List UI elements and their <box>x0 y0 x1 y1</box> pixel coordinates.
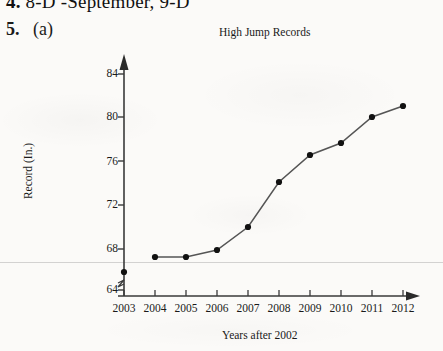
data-point-markers <box>121 103 406 275</box>
plot-area <box>0 0 443 351</box>
y-axis <box>118 54 129 296</box>
high-jump-records-chart: High Jump Records Record (In.) Years aft… <box>0 0 443 351</box>
x-axis <box>118 290 420 301</box>
